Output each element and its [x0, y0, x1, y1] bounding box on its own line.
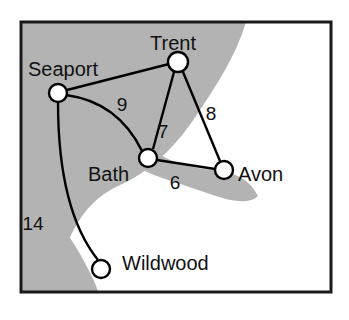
- edge-weight-trent-bath: 7: [158, 121, 169, 142]
- edge-weight-seaport-wildwood: 14: [22, 213, 44, 234]
- city-label-wildwood: Wildwood: [122, 252, 209, 274]
- city-label-avon: Avon: [238, 163, 283, 185]
- city-label-trent: Trent: [150, 32, 196, 54]
- city-node-bath[interactable]: [139, 149, 157, 167]
- city-node-avon[interactable]: [215, 161, 233, 179]
- map-figure: 9 7 8 6 14 Seaport Trent Bath Avon Wildw…: [0, 0, 349, 320]
- city-node-trent[interactable]: [168, 52, 188, 72]
- city-node-seaport[interactable]: [49, 84, 67, 102]
- city-label-seaport: Seaport: [28, 58, 98, 80]
- edge-weight-trent-avon: 8: [206, 103, 217, 124]
- city-node-wildwood[interactable]: [92, 260, 110, 278]
- edge-weight-seaport-bath: 9: [117, 94, 128, 115]
- city-label-bath: Bath: [88, 163, 129, 185]
- map-canvas: 9 7 8 6 14 Seaport Trent Bath Avon Wildw…: [0, 0, 349, 320]
- edge-weight-bath-avon: 6: [170, 172, 181, 193]
